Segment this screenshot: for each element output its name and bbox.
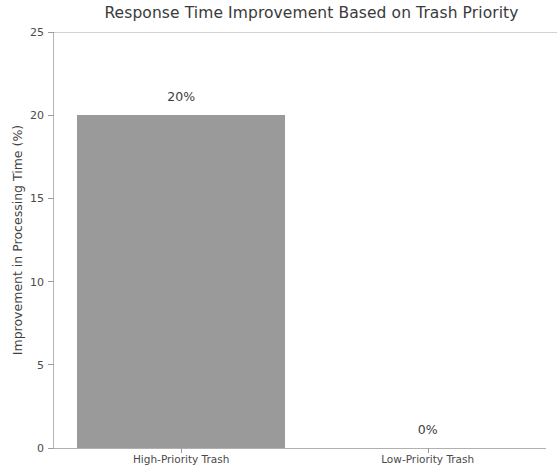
y-axis-ticks: 0510152025 — [0, 0, 57, 470]
y-tick-label: 10 — [0, 275, 44, 288]
axis-spine-bottom — [53, 448, 546, 449]
y-tick-label: 15 — [0, 192, 44, 205]
y-tick-label: 25 — [0, 26, 44, 39]
bar-value-label-1: 0% — [318, 422, 538, 437]
y-tick-mark — [48, 281, 54, 282]
bar-0 — [77, 115, 285, 448]
axis-spine-top — [53, 32, 557, 33]
y-tick-label: 5 — [0, 358, 44, 371]
y-tick-mark — [48, 198, 54, 199]
y-tick-mark — [48, 448, 54, 449]
x-tick-label: Low-Priority Trash — [318, 453, 538, 465]
x-tick-label: High-Priority Trash — [71, 453, 291, 465]
y-tick-mark — [48, 32, 54, 33]
y-tick-mark — [48, 115, 54, 116]
y-tick-label: 20 — [0, 109, 44, 122]
y-tick-label: 0 — [0, 442, 44, 455]
bar-value-label-0: 20% — [71, 89, 291, 104]
chart-title: Response Time Improvement Based on Trash… — [66, 4, 557, 22]
y-tick-mark — [48, 364, 54, 365]
bar-chart-figure: Response Time Improvement Based on Trash… — [0, 0, 557, 470]
